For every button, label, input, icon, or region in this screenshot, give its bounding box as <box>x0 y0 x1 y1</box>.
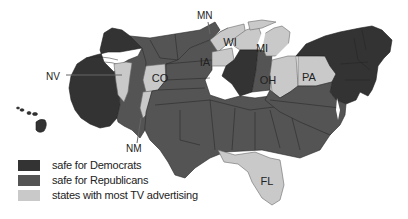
state-fl <box>218 150 284 205</box>
label-nm: NM <box>126 143 142 154</box>
legend-label: states with most TV advertising <box>52 189 198 201</box>
legend-label: safe for Democrats <box>52 159 141 171</box>
legend-label: safe for Republicans <box>52 174 148 186</box>
label-ia: IA <box>200 56 211 68</box>
hawaii <box>17 107 47 132</box>
legend-item-republicans: safe for Republicans <box>18 173 198 187</box>
swatch-tv-advertising <box>18 190 40 201</box>
swatch-democrats <box>18 160 40 171</box>
legend: safe for Democrats safe for Republicans … <box>18 158 198 203</box>
label-nv: NV <box>46 71 60 82</box>
label-wi: WI <box>223 36 236 48</box>
legend-item-tv-advertising: states with most TV advertising <box>18 188 198 202</box>
swatch-republicans <box>18 175 40 186</box>
label-mi: MI <box>256 42 268 54</box>
label-oh: OH <box>260 74 277 86</box>
label-co: CO <box>152 72 169 84</box>
label-pa: PA <box>302 71 317 83</box>
legend-item-democrats: safe for Democrats <box>18 158 198 172</box>
label-mn: MN <box>197 10 213 21</box>
label-fl: FL <box>261 175 274 187</box>
